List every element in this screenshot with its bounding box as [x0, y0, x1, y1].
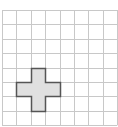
grid-diagram — [0, 0, 118, 127]
grid-lines — [2, 10, 118, 126]
cross-shape — [17, 69, 61, 112]
